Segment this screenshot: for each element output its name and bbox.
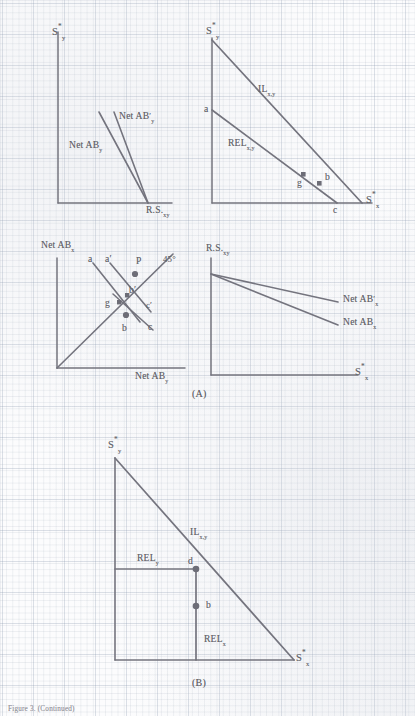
panelB-x-axis-label: S*x <box>296 653 309 664</box>
figure-footer-note: Figure 3. (Continued) <box>8 706 75 713</box>
panelB-label-rel-y: RELy <box>137 553 159 563</box>
panelB-label-il: ILx,y <box>190 527 208 537</box>
panelB-label-rel-x: RELx <box>204 634 226 644</box>
figure-container: S*y R.S.xy Net ABy Net AB′y S*y S*x ILx,… <box>0 0 415 716</box>
caption-b: (B) <box>192 678 206 688</box>
panelB-point-d-marker <box>193 566 200 573</box>
panelB-y-axis-label: S*y <box>108 440 121 451</box>
panelB-point-d-label: d <box>188 556 193 566</box>
panelB-point-b-label: b <box>206 600 211 610</box>
panelB-point-b-marker <box>193 603 200 610</box>
